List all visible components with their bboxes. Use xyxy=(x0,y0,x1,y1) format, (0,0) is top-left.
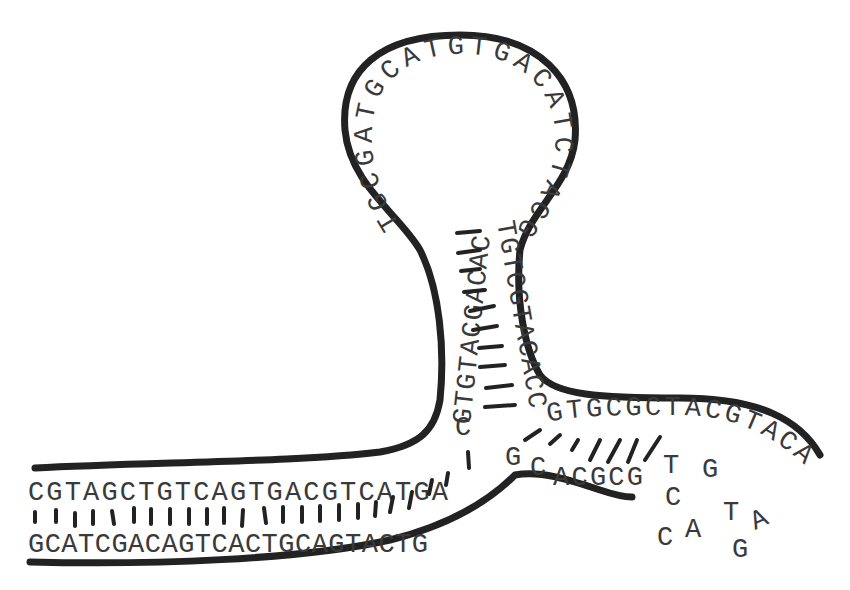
junction-bottom-g: G xyxy=(505,443,521,473)
left-top-strand: CGTAGCTGTCAGTGACGTCATGA xyxy=(28,478,449,508)
left-bottom-strand: GCATCGACAGTCACTGCAGTACTG xyxy=(28,530,428,560)
svg-text:G: G xyxy=(702,455,718,485)
junction-bottom-c: C xyxy=(530,453,546,483)
backbone-top-left xyxy=(35,35,820,468)
right-top-strand: GTGCGCTACGTACA xyxy=(544,393,819,472)
right-bottom-strand: ACGCG xyxy=(553,463,643,493)
svg-text:T: T xyxy=(723,498,739,528)
free-bases: T C C A G T A G xyxy=(657,451,774,565)
svg-text:A: A xyxy=(746,503,774,537)
svg-text:C: C xyxy=(657,523,673,553)
stem-right-strand: TGTCGTACACC xyxy=(489,218,552,410)
svg-text:C: C xyxy=(665,483,681,513)
dna-hairpin-diagram: CGTAGCTGTCAGTGACGTCATGA GCATCGACAGTCACTG… xyxy=(0,0,850,590)
svg-text:A: A xyxy=(685,515,702,545)
svg-text:T: T xyxy=(663,451,679,481)
svg-text:G: G xyxy=(732,535,748,565)
